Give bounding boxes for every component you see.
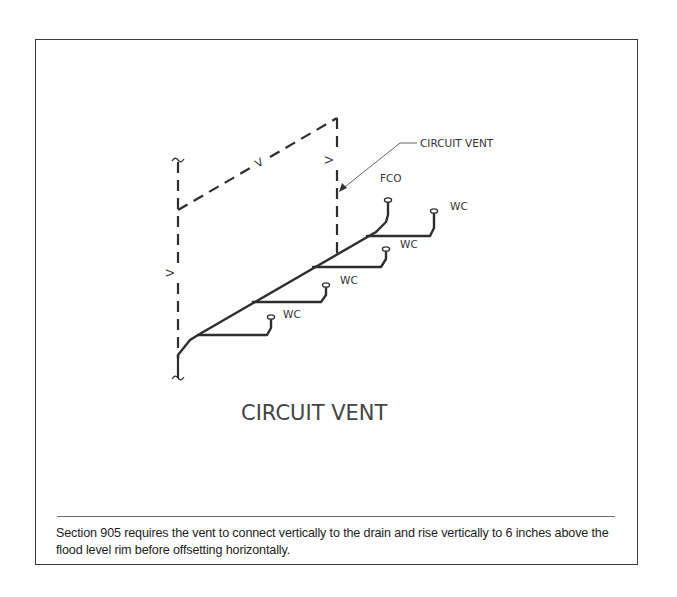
pipe-break-top-icon [172,158,184,162]
wc-label-1: WC [283,308,301,320]
wc-branch-2 [253,286,326,302]
callout-arrowhead-icon [339,183,347,192]
drain-piping [178,201,434,358]
vent-piping [178,118,337,357]
cleanout-cap-icon [384,198,391,202]
wc-label-2: WC [340,274,358,286]
wc-branch-1 [198,318,271,335]
caption-separator [57,516,615,517]
vent-offset-lower [178,167,252,210]
figure-caption: Section 905 requires the vent to connect… [56,525,626,559]
wc-label-3: WC [400,238,418,250]
cleanout-stub [376,201,388,232]
wc-label-4: WC [450,200,468,212]
wc-3-cap-icon [382,247,389,251]
callout-label: CIRCUIT VENT [420,137,494,149]
vent-label-top: V [253,155,266,170]
callout-leader-line [341,143,417,190]
horizontal-branch-drain [178,232,376,358]
wc-1-cap-icon [267,315,274,319]
vent-label-right: V [323,156,336,164]
wc-branch-3 [313,250,386,267]
cleanout-label: FCO [380,172,402,184]
wc-2-cap-icon [322,283,329,287]
vent-offset-upper [270,118,337,157]
figure-title: CIRCUIT VENT [241,401,387,425]
vent-label-left: V [164,269,177,277]
circuit-vent-diagram: V V V WC WC WC WC FCO CIRCUIT VENT CIRCU… [0,0,677,597]
wc-4-cap-icon [430,209,437,213]
